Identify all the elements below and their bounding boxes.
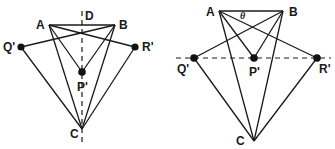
right-point-Q bbox=[190, 54, 198, 62]
right-point-R bbox=[313, 54, 321, 62]
right-segment-QC bbox=[194, 58, 254, 141]
right-segment-AP bbox=[219, 11, 254, 58]
right-label-R: R' bbox=[319, 62, 331, 76]
left-point-R bbox=[131, 43, 138, 50]
left-diagram: A B D Q' R' P' C bbox=[3, 9, 154, 144]
right-label-A: A bbox=[206, 5, 215, 19]
left-label-D: D bbox=[85, 9, 94, 23]
right-point-P bbox=[250, 54, 258, 62]
left-segment-RC bbox=[82, 47, 135, 129]
figure-canvas: A B D Q' R' P' C A B θ Q' P' R' C bbox=[0, 0, 335, 149]
right-label-P: P' bbox=[249, 65, 260, 79]
right-label-B: B bbox=[289, 5, 298, 19]
left-label-R: R' bbox=[142, 40, 154, 54]
left-label-B: B bbox=[119, 18, 128, 32]
left-label-A: A bbox=[36, 18, 45, 32]
left-segment-AC bbox=[49, 25, 82, 129]
left-label-Q: Q' bbox=[3, 40, 15, 54]
right-label-Q: Q' bbox=[177, 62, 189, 76]
right-label-C: C bbox=[236, 134, 245, 148]
left-point-Q bbox=[17, 43, 24, 50]
left-segment-BC bbox=[82, 25, 115, 129]
right-label-theta: θ bbox=[240, 10, 246, 21]
left-point-P bbox=[78, 68, 86, 76]
left-label-P: P' bbox=[77, 80, 88, 94]
left-label-C: C bbox=[70, 127, 79, 141]
right-diagram: A B θ Q' P' R' C bbox=[176, 5, 331, 148]
